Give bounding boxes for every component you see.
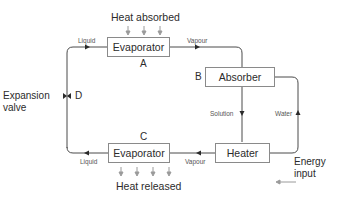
energy-input-line1: Energy [294,156,326,168]
heater-label: Heater [227,147,259,159]
liquid-line-top [67,47,107,148]
arrow-liquid-top [85,45,90,50]
water-label: Water [275,111,292,118]
evaporator-a-label: Evaporator [113,41,164,53]
energy-input-line2: input [294,168,326,180]
letter-b: B [195,72,202,82]
arrow-water [296,110,301,115]
bottom-vapour-label: Vapour [185,159,205,166]
solution-label: Solution [210,111,234,118]
vapour-line-top [170,47,242,67]
arrow-vapour-top [195,45,200,50]
expansion-valve-label: Expansion valve [3,90,50,114]
energy-input-label: Energy input [294,156,326,180]
heat-absorbed-label: Heat absorbed [111,12,180,23]
evaporator-c-label: Evaporator [113,147,164,159]
top-liquid-label: Liquid [78,38,95,45]
bottom-liquid-label: Liquid [80,159,97,166]
absorber-box: Absorber [205,67,275,87]
letter-c: C [140,132,147,142]
heat-absorbed-arrows [126,26,162,35]
letter-d: D [75,91,82,101]
evaporator-c-box: Evaporator [108,143,170,163]
evaporator-a-box: Evaporator [107,37,170,57]
arrow-vapour-bottom [196,151,201,156]
arrow-liquid-bottom [84,151,89,156]
heat-released-label: Heat released [116,181,181,192]
top-vapour-label: Vapour [187,38,207,45]
absorber-label: Absorber [219,71,262,83]
cycle-lines [0,0,339,199]
energy-input-arrow [276,180,296,184]
heat-released-arrows [119,167,171,176]
heater-box: Heater [215,143,270,163]
expansion-valve-line1: Expansion [3,90,50,102]
expansion-valve-line2: valve [3,102,50,114]
arrow-solution [240,111,245,116]
letter-a: A [140,59,147,69]
